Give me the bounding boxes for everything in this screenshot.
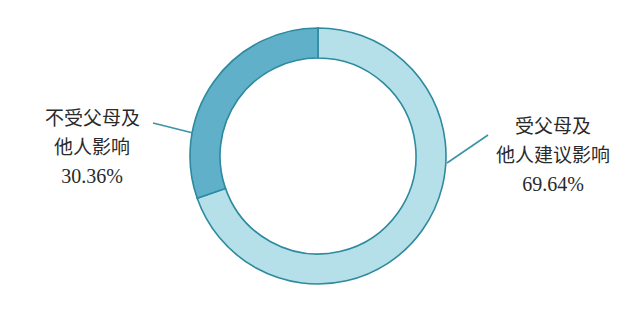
donut-slices (190, 28, 446, 284)
label-right-percent: 69.64% (478, 170, 628, 199)
label-right-line2: 他人建议影响 (478, 141, 628, 170)
slice-label-influenced: 受父母及 他人建议影响 69.64% (478, 112, 628, 199)
slice-label-not-influenced: 不受父母及 他人影响 30.36% (22, 104, 162, 191)
label-left-percent: 30.36% (22, 162, 162, 191)
donut-slice-1 (190, 28, 318, 198)
label-left-line2: 他人影响 (22, 133, 162, 162)
label-left-line1: 不受父母及 (22, 104, 162, 133)
label-right-line1: 受父母及 (478, 112, 628, 141)
